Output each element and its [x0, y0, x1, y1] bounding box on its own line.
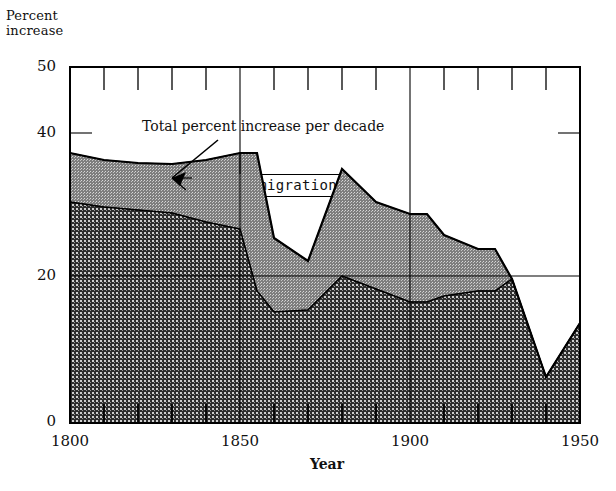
chart-figure: Percentincrease 50 40 20 0 1800 1850 190…: [0, 0, 616, 491]
chart-canvas: [0, 0, 616, 491]
top-decade-ticks: [104, 67, 546, 90]
